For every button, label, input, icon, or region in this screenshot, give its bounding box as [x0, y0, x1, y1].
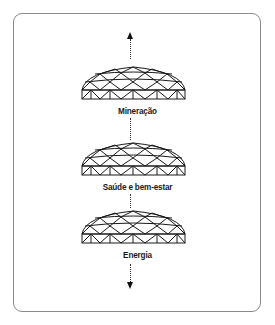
geodesic-dome-icon — [81, 66, 186, 100]
arrow-up-icon — [127, 32, 133, 39]
geodesic-dome-icon — [81, 210, 186, 244]
arrow-down-icon — [127, 282, 133, 289]
geodesic-dome-icon — [81, 142, 186, 176]
node-label-saude-e-bem-estar: Saúde e bem-estar — [19, 181, 256, 192]
connector-1-2 — [130, 118, 131, 140]
connector-bottom — [130, 264, 131, 282]
node-label-energia: Energia — [19, 249, 256, 260]
connector-top — [130, 39, 131, 59]
node-label-mineracao: Mineração — [19, 105, 256, 116]
connector-2-3 — [130, 194, 131, 208]
